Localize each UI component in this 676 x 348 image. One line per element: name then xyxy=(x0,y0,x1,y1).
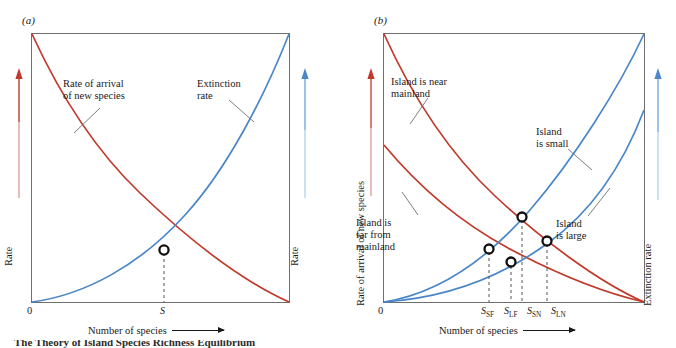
figure-caption-strip: The Theory of Island Species Richness Eq… xyxy=(0,340,676,348)
panel-a: (a) Rate of arrival of new species xyxy=(0,0,340,348)
panel-a-tick-S: S xyxy=(160,305,165,316)
panel-b-tick-SSF: SSF xyxy=(481,305,494,319)
panel-b-tick-SLN: SLN xyxy=(551,305,566,319)
panel-b-letter: (b) xyxy=(374,14,387,26)
panel-a-right-axis-label: Rate xyxy=(289,247,300,266)
panel-a-letter: (a) xyxy=(22,14,35,26)
panel-a-plot-area xyxy=(31,33,290,303)
panel-a-annotation-extinction: Extinction rate xyxy=(197,78,275,102)
tick-SLF-sub: LF xyxy=(509,311,517,319)
panel-a-x-axis-arrow-icon xyxy=(172,330,224,331)
panel-b-annotation-island-large: Island is large xyxy=(556,218,622,242)
panel-b-tick-SLF: SLF xyxy=(504,305,517,319)
panel-b-left-axis-label: Rate of arrival of new species xyxy=(355,181,366,306)
panel-b-tick-SSN: SSN xyxy=(527,305,541,319)
panel-b-origin-label: 0 xyxy=(378,305,383,316)
panel-b-annotation-island-small: Island is small xyxy=(536,126,606,150)
figure-caption: The Theory of Island Species Richness Eq… xyxy=(14,340,255,348)
tick-SSN-sub: SN xyxy=(532,311,541,319)
panel-b-plot-area xyxy=(383,33,645,303)
panel-a-origin-label: 0 xyxy=(27,305,32,316)
panel-b-annotation-near-mainland: Island is near mainland xyxy=(391,76,487,100)
panel-b-x-axis-label: Number of species xyxy=(439,325,518,336)
panel-a-x-axis-label: Number of species xyxy=(88,325,167,336)
tick-SLN-sub: LN xyxy=(556,311,566,319)
panel-a-annotation-arrival: Rate of arrival of new species xyxy=(63,78,173,102)
panel-b-right-axis-label: Extinction rate xyxy=(642,244,653,306)
panel-b-annotation-far-mainland: Island is far from mainland xyxy=(356,217,438,254)
panel-b-x-axis-arrow-icon xyxy=(523,330,575,331)
panel-a-x-axis: Number of species xyxy=(88,325,224,336)
panel-a-left-axis-label: Rate xyxy=(3,247,14,266)
island-biogeography-figure: (a) Rate of arrival of new species xyxy=(0,0,676,348)
panel-b: (b) xyxy=(340,0,676,348)
panel-b-x-axis: Number of species xyxy=(439,325,575,336)
tick-SSF-sub: SF xyxy=(486,311,494,319)
